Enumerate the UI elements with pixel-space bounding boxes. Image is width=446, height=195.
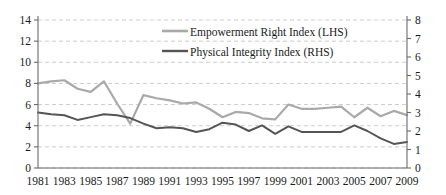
- x-axis-tick-label: 2005: [343, 175, 366, 187]
- left-axis-tick-label: 8: [25, 77, 31, 89]
- legend-label: Physical Integrity Index (RHS): [190, 46, 334, 59]
- left-axis-tick-label: 12: [20, 35, 32, 47]
- x-axis-tick-label: 2009: [396, 175, 419, 187]
- x-axis-tick-label: 1987: [106, 175, 129, 187]
- right-axis-tick-label: 0: [415, 162, 421, 174]
- right-axis-tick-label: 6: [415, 51, 421, 63]
- plot-area: [38, 80, 407, 144]
- left-axis-tick-label: 2: [25, 141, 31, 153]
- x-axis-tick-label: 1995: [211, 175, 234, 187]
- gridlines: [38, 20, 407, 168]
- left-axis-tick-label: 0: [25, 162, 31, 174]
- dual-axis-line-chart: 02468101214 012345678 198119831985198719…: [0, 0, 446, 195]
- x-axis-tick-label: 1997: [237, 175, 260, 187]
- x-axis-tick-label: 1985: [79, 175, 102, 187]
- right-axis-tick-label: 4: [415, 88, 421, 100]
- x-axis-tick-label: 1989: [132, 175, 155, 187]
- legend-label: Empowerment Right Index (LHS): [190, 26, 348, 39]
- left-axis: 02468101214: [20, 14, 39, 174]
- right-axis-tick-label: 2: [415, 125, 421, 137]
- right-axis-tick-label: 5: [415, 70, 421, 82]
- left-axis-tick-label: 10: [20, 56, 32, 68]
- right-axis-tick-label: 8: [415, 14, 421, 26]
- x-axis-tick-label: 1993: [185, 175, 208, 187]
- x-axis-tick-label: 1991: [158, 175, 181, 187]
- left-axis-tick-label: 4: [25, 120, 31, 132]
- left-axis-tick-label: 6: [25, 99, 31, 111]
- x-axis-tick-label: 1999: [264, 175, 287, 187]
- x-axis-tick-label: 1981: [27, 175, 50, 187]
- right-axis-tick-label: 7: [415, 33, 421, 45]
- chart-legend: Empowerment Right Index (LHS)Physical In…: [162, 26, 348, 59]
- x-axis-tick-label: 1983: [53, 175, 76, 187]
- right-axis-tick-label: 3: [415, 107, 421, 119]
- chart-container: 02468101214 012345678 198119831985198719…: [0, 0, 446, 195]
- x-axis: 1981198319851987198919911993199519971999…: [27, 168, 419, 187]
- right-axis: 012345678: [407, 14, 421, 174]
- x-axis-tick-label: 2001: [290, 175, 313, 187]
- right-axis-tick-label: 1: [415, 144, 421, 156]
- x-axis-tick-label: 2003: [316, 175, 339, 187]
- left-axis-tick-label: 14: [20, 14, 32, 26]
- x-axis-tick-label: 2007: [369, 175, 392, 187]
